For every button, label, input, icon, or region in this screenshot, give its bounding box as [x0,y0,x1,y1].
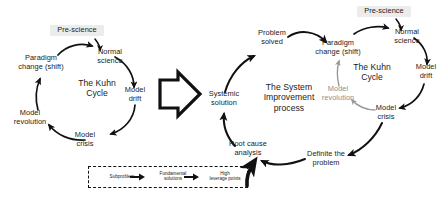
legend-box: Subproblem Fundamental solutions High le… [88,166,248,188]
legend-item-high-leverage-points: High leverage points [201,171,249,182]
kuhn-left-center-title: The Kuhn Cycle [66,78,128,99]
sip-node-definite-the-problem: Definite the problem [300,150,352,167]
legend-item-subproblem: Subproblem [99,174,145,179]
kuhn-right-node-model-drift: Model drift [412,63,438,80]
kuhn-left-node-paradigm-change: Paradigm change (shift) [12,54,70,71]
kuhn-left-node-model-revolution: Model revolution [6,109,54,126]
kuhn-right-node-model-revolution: Model revolution [314,85,362,102]
kuhn-right-node-model-crisis: Model crisis [370,104,402,121]
sip-node-root-cause-analysis: Root cause analysis [222,140,274,157]
block-arrow-right-icon [160,72,200,116]
sip-node-systemic-solution: Systemic solution [203,90,245,107]
kuhn-right-node-paradigm-change: Paradigm change (shift) [309,39,367,56]
legend-item-fundamental-solutions: Fundamental solutions [149,171,197,182]
kuhn-left-node-pre-science: Pre-science [50,25,104,36]
kuhn-left-node-model-crisis: Model crisis [69,131,101,148]
kuhn-right-center-title: The Kuhn Cycle [348,62,396,83]
kuhn-right-node-normal-science: Normal science [389,28,425,45]
sip-node-problem-solved: Problem solved [252,29,292,46]
diagram-canvas: Pre-science Normal science Model drift M… [0,0,438,199]
kuhn-right-node-pre-science: Pre-science [357,6,411,17]
kuhn-left-node-normal-science: Normal science [92,48,128,65]
